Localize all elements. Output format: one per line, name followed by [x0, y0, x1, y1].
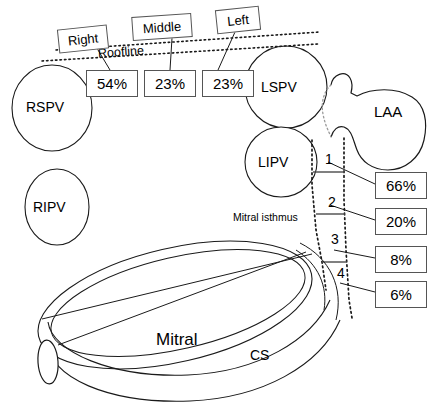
- roofline-middle-box: Middle: [131, 13, 193, 41]
- leader-seg-4: [340, 283, 375, 292]
- isthmus-segment-2-number: 2: [328, 194, 336, 210]
- isthmus-segment-3-number: 3: [331, 231, 339, 247]
- isthmus-segment-4-number: 4: [337, 265, 345, 281]
- leader-seg-2: [330, 205, 375, 220]
- roofline-right-percent: 54%: [97, 75, 127, 92]
- isthmus-dotted-right: [344, 138, 352, 318]
- isthmus-segment-2-percent-box: 20%: [375, 208, 427, 235]
- isthmus-segment-1-percent-box: 66%: [375, 172, 427, 199]
- laa-outline: [331, 74, 426, 170]
- leader-seg-3: [334, 250, 375, 258]
- isthmus-segment-4-percent-box: 6%: [375, 281, 427, 308]
- isthmus-segment-3-percent-box: 8%: [375, 246, 427, 273]
- roofline-middle-label: Middle: [142, 18, 181, 36]
- coronary-sinus-label: CS: [250, 347, 269, 363]
- isthmus-segment-1-number: 1: [325, 151, 333, 167]
- roofline-middle-percent-box: 23%: [144, 70, 196, 97]
- isthmus-segment-3-percent: 8%: [390, 251, 412, 268]
- lipv-label: LIPV: [258, 154, 288, 170]
- laa-label: LAA: [374, 103, 402, 120]
- ripv-label: RIPV: [33, 199, 66, 215]
- roofline-left-box: Left: [215, 6, 261, 34]
- mitral-annulus-label: Mitral: [156, 330, 198, 350]
- roofline-left-label: Left: [226, 11, 249, 28]
- roofline-left-percent-box: 23%: [202, 70, 254, 97]
- leader-seg-1: [328, 162, 375, 184]
- roofline-middle-percent: 23%: [155, 75, 185, 92]
- isthmus-segment-4-percent: 6%: [390, 286, 412, 303]
- isthmus-segment-1-percent: 66%: [386, 177, 416, 194]
- rspv-label: RSPV: [26, 99, 64, 115]
- mitral-isthmus-label: Mitral isthmus: [233, 211, 298, 223]
- isthmus-segment-2-percent: 20%: [386, 213, 416, 230]
- lspv-label: LSPV: [261, 79, 297, 95]
- roofline-right-percent-box: 54%: [86, 70, 138, 97]
- roofline-right-label: Right: [67, 30, 99, 48]
- roofline-left-percent: 23%: [213, 75, 243, 92]
- diagram-canvas: RSPV RIPV LSPV LIPV LAA Roofline Right M…: [0, 0, 433, 419]
